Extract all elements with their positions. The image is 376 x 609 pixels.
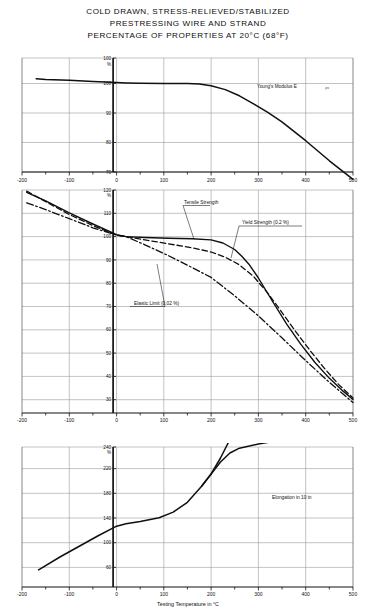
panel-3-annotation-label: Elongation in 10 in <box>272 495 312 500</box>
figure-title-line-3: PERCENTAGE OF PROPERTIES AT 20°C (68°F) <box>0 30 376 42</box>
panel-2-ytick-5: 70 <box>106 304 112 309</box>
panel-1-annotation-youngs-modulus: Young's Modulus E ps <box>257 84 329 90</box>
panel-1-xtick-2: 0 <box>115 177 118 183</box>
panel-1-gridlines <box>22 58 353 172</box>
series-elastic-limit <box>27 203 353 403</box>
panel-2-xtick-0: -200 <box>17 417 27 423</box>
panel-2-annotation-tensile: Tensile Strength <box>183 200 219 240</box>
panel-3-xtick-1: -100 <box>64 591 74 597</box>
panel-3-ytick-0: 240 <box>103 445 111 450</box>
panel-3-ytick-1: 220 <box>103 466 111 471</box>
panel-2-annotation-elastic-label: Elastic Limit (0.02 %) <box>134 301 179 306</box>
panel-3-xtick-6: 400 <box>302 591 311 597</box>
panel-2-xtick-5: 300 <box>254 417 263 423</box>
panel-1-xtick-4: 200 <box>207 177 216 183</box>
panel-2-svg: 120 % 110 100 90 80 70 60 50 40 30 Tensi… <box>0 186 376 422</box>
panel-2-ytick-0: 120 <box>103 188 111 193</box>
panel-3-ytick-2: 180 <box>103 491 111 496</box>
panel-2-ytick-9: 30 <box>106 397 112 402</box>
panel-1-ytick-2: 80 <box>106 140 112 145</box>
panel-3-xtick-4: 200 <box>207 591 216 597</box>
series-yield-strength <box>27 191 353 398</box>
panel-3-ytick-3: 140 <box>103 516 111 521</box>
panel-3-ytick-5: 60 <box>106 565 112 570</box>
figure-title-block: COLD DRAWN, STRESS-RELIEVED/STABILIZED P… <box>0 6 376 43</box>
panel-2-xtick-4: 200 <box>207 417 216 423</box>
panel-2-y-ticks: 120 % 110 100 90 80 70 60 50 40 30 <box>103 188 111 403</box>
panel-1-xtick-3: 100 <box>160 177 169 183</box>
panel-2-xtick-6: 400 <box>302 417 311 423</box>
panel-2-ytick-1: 110 <box>104 211 112 216</box>
panel-2-xtick-2: 0 <box>115 417 118 423</box>
panel-1-xtick-6: 400 <box>302 177 311 183</box>
panel-2-xtick-1: -100 <box>64 417 74 423</box>
panel-3-gridlines <box>22 447 353 587</box>
chart-panel-youngs-modulus: 100 % 100 90 80 70 Young's Modulus E ps … <box>0 54 376 184</box>
panel-1-ytick-100-top: 100 <box>103 56 111 61</box>
panel-3-annotation-elongation: Elongation in 10 in <box>272 495 312 500</box>
series-elongation-upper <box>202 443 278 486</box>
x-axis-title: Testing Temperature in °C <box>157 601 219 607</box>
panel-3-y-ticks: 240 % 220 180 140 100 60 <box>103 445 111 570</box>
panel-1-ytick-1: 90 <box>106 111 112 116</box>
panel-3-ytick-4: 100 <box>103 540 111 545</box>
panel-3-xtick-0: -200 <box>17 591 27 597</box>
panel-1-xtick-1: -100 <box>64 177 74 183</box>
panel-3-xtick-7: 500 <box>349 591 358 597</box>
panel-1-svg: 100 % 100 90 80 70 Young's Modulus E ps … <box>0 54 376 184</box>
panel-2-yunit: % <box>107 193 111 198</box>
panel-1-y-ticks: 100 % 100 90 80 70 <box>103 56 111 174</box>
figure-title-line-1: COLD DRAWN, STRESS-RELIEVED/STABILIZED <box>0 6 376 18</box>
panel-2-ytick-4: 80 <box>106 281 112 286</box>
panel-2-annotation-yield-label: Yield Strength (0.2 %) <box>242 220 289 225</box>
panel-2-gridlines <box>22 190 353 413</box>
chart-panel-elongation: 240 % 220 180 140 100 60 Elongation in 1… <box>0 443 376 609</box>
panel-1-yunit: % <box>107 62 111 67</box>
panel-2-annotation-yield: Yield Strength (0.2 %) <box>231 220 302 258</box>
series-elongation <box>39 443 230 570</box>
panel-3-xtick-5: 300 <box>254 591 263 597</box>
panel-2-annotation-elastic: Elastic Limit (0.02 %) <box>130 264 179 307</box>
panel-1-x-axis: -200 -100 0 100 200 300 400 500 <box>17 172 357 183</box>
panel-2-xtick-7: 500 <box>349 417 358 423</box>
panel-2-ytick-6: 60 <box>106 327 112 332</box>
panel-2-ytick-7: 50 <box>106 351 112 356</box>
panel-1-xtick-7: 500 <box>349 177 358 183</box>
panel-2-ytick-3: 90 <box>106 258 112 263</box>
series-tensile-strength <box>27 192 353 399</box>
panel-2-annotation-tensile-label: Tensile Strength <box>184 200 219 205</box>
panel-2-ytick-2: 100 <box>103 234 111 239</box>
panel-2-x-axis: -200 -100 0 100 200 300 400 500 <box>17 413 357 422</box>
panel-1-xtick-0: -200 <box>17 177 27 183</box>
panel-1-xtick-5: 300 <box>254 177 263 183</box>
panel-1-annotation-subscript: ps <box>325 86 330 90</box>
panel-3-svg: 240 % 220 180 140 100 60 Elongation in 1… <box>0 443 376 609</box>
panel-3-x-axis: -200 -100 0 100 200 300 400 500 Testing … <box>17 587 357 607</box>
panel-3-yunit: % <box>107 450 111 455</box>
chart-panel-strength: 120 % 110 100 90 80 70 60 50 40 30 Tensi… <box>0 186 376 422</box>
panel-3-xtick-3: 100 <box>160 591 169 597</box>
panel-2-ytick-8: 40 <box>106 374 112 379</box>
panel-2-xtick-3: 100 <box>160 417 169 423</box>
figure-title-line-2: PRESTRESSING WIRE AND STRAND <box>0 18 376 30</box>
panel-1-annotation-label: Young's Modulus E <box>257 84 297 89</box>
panel-3-xtick-2: 0 <box>115 591 118 597</box>
